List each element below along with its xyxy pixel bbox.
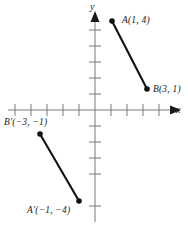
point-a [109, 18, 115, 24]
segment-a-prime-b-prime [40, 134, 79, 201]
y-axis-arrow-icon [91, 11, 100, 22]
point-label-a: A(1, 4) [122, 16, 150, 26]
point-b-prime [37, 131, 43, 137]
point-label-a-prime: A′(−1, −4) [27, 206, 70, 216]
segment-ab [112, 21, 147, 89]
point-b [144, 86, 150, 92]
point-label-b-prime: B′(−3, −1) [4, 118, 47, 128]
y-axis-label: y [90, 2, 94, 12]
coordinate-plane-svg [0, 0, 188, 226]
coordinate-plane-figure: A(1, 4) B(3, 1) B′(−3, −1) A′(−1, −4) x … [0, 0, 188, 226]
point-label-b: B(3, 1) [153, 85, 181, 95]
x-axis-label: x [176, 105, 180, 115]
point-a-prime [76, 198, 82, 204]
